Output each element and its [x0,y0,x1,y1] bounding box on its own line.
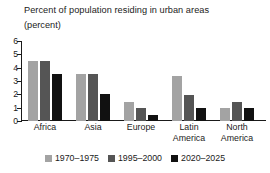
bar [196,108,206,121]
bar-group [220,41,254,121]
x-axis-category-labels: AfricaAsiaEuropeLatin AmericaNorth Ameri… [0,122,270,148]
bar [220,108,230,121]
plot-area: 6543210 [0,36,270,126]
bar [40,61,50,121]
chart-title: Percent of population residing in urban … [24,5,209,16]
bar [244,108,254,121]
bar [100,94,110,121]
bar [28,61,38,121]
bar [76,74,86,121]
x-axis-category-label: Europe [115,122,167,133]
bar-group [28,41,62,121]
legend-item: 2020–2025 [171,154,225,163]
legend-item: 1970–1975 [45,154,99,163]
bar-chart: Percent of population residing in urban … [0,0,270,173]
bar [148,115,158,121]
x-axis-category-label: North America [211,122,263,143]
x-axis-category-label: Asia [67,122,119,133]
bar [232,102,242,121]
bar [184,95,194,121]
legend-swatch-icon [45,155,52,162]
chart-subtitle: (percent) [24,20,61,31]
x-axis-category-label: Africa [19,122,71,133]
legend-swatch-icon [171,155,178,162]
legend-label: 1970–1975 [55,154,99,163]
bar [52,74,62,121]
bar-group [76,41,110,121]
bar-group [124,41,158,121]
x-axis-category-label: Latin America [163,122,215,143]
legend-item: 1995–2000 [108,154,162,163]
chart-legend: 1970–19751995–20002020–2025 [0,154,270,163]
bars-container [22,41,266,121]
bar-group [172,41,206,121]
bar [124,102,134,121]
legend-swatch-icon [108,155,115,162]
bar [172,76,182,121]
legend-label: 1995–2000 [118,154,162,163]
legend-label: 2020–2025 [181,154,225,163]
bar [88,74,98,121]
bar [136,108,146,121]
